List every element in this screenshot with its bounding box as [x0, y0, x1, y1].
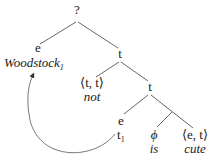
root-label: ? — [74, 2, 80, 17]
node-not-type: ⟨t, t⟩ — [80, 75, 104, 90]
node-is-type: ϕ — [151, 127, 158, 142]
node-t-lower: t — [148, 79, 152, 94]
node-cute-word: cute — [184, 141, 206, 156]
edge-tlower-cute — [151, 95, 193, 128]
edge-tlower-e — [124, 95, 148, 114]
edge-mid-is — [157, 112, 172, 127]
node-woodstock-word: Woodstock1 — [4, 55, 64, 72]
edge-root-t — [78, 22, 118, 48]
edge-t-tlower — [121, 62, 148, 81]
node-trace-type: e — [118, 113, 124, 128]
node-is-word: is — [150, 141, 159, 156]
node-not-word: not — [84, 89, 101, 104]
edge-root-e — [40, 22, 76, 44]
node-trace-word: t1 — [117, 127, 125, 144]
node-t-upper: t — [118, 46, 122, 61]
node-cute-type: ⟨e, t⟩ — [182, 127, 208, 142]
syntax-tree-diagram: ? e Woodstock1 t ⟨t, t⟩ not t e t1 ϕ is … — [0, 0, 220, 164]
node-e-type: e — [35, 40, 41, 55]
